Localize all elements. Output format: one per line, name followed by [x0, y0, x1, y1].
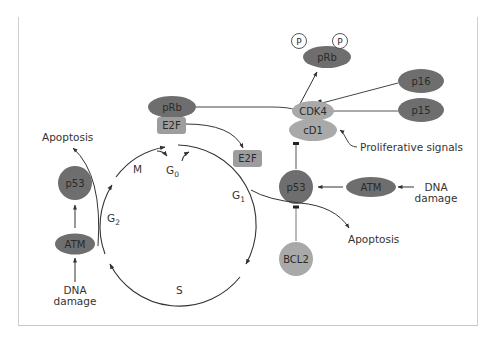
cd1-label: cD1 — [303, 125, 323, 136]
cdk4-to-prb-arrow — [300, 72, 317, 104]
bcl2-label: BCL2 — [283, 254, 309, 265]
prb-to-cdk4-line — [196, 107, 295, 110]
cdk4-cyclin-complex: CDK4 cD1 p16 p15 Proliferative signals — [289, 69, 463, 153]
right-pathway: p53 ATM DNA damage Apoptosis BCL2 — [251, 142, 457, 276]
s-arc — [110, 264, 240, 306]
p15-label: p15 — [411, 105, 430, 116]
g0-entry-arrow — [157, 151, 167, 156]
left-pathway: Apoptosis p53 ATM DNA damage — [42, 131, 99, 307]
phase-s-label: S — [176, 284, 183, 296]
bcl2-p53-inhibition-bar — [293, 206, 299, 209]
prb-e2f-complex: pRb E2F E2F — [148, 96, 295, 167]
p16-label: p16 — [411, 76, 430, 87]
phase-m-label: M — [133, 163, 142, 175]
e2f-release-arrow — [186, 124, 243, 148]
e2f-free-label: E2F — [238, 153, 257, 164]
e2f-bound-label: E2F — [162, 120, 181, 131]
phosphate-right-label: P — [337, 37, 343, 47]
prb-phospho-label: pRb — [317, 52, 337, 63]
apoptosis-left-label: Apoptosis — [42, 131, 93, 143]
atm-left-label: ATM — [65, 239, 86, 250]
phosphate-left-label: P — [296, 37, 302, 47]
atm-right-label: ATM — [361, 182, 382, 193]
phase-g2-label: G2 — [107, 212, 120, 227]
proliferative-signals-label: Proliferative signals — [360, 141, 463, 153]
phase-labels: M G0 G1 S G2 — [107, 163, 245, 296]
p53-left-label: p53 — [65, 178, 84, 189]
phase-g0-label: G0 — [166, 164, 179, 179]
g0-exit-arrow — [182, 152, 189, 161]
p16-inhibition-line — [322, 83, 398, 103]
phase-g1-label: G1 — [232, 189, 245, 204]
proliferative-signals-arrow — [340, 130, 357, 147]
cdk4-label: CDK4 — [299, 106, 327, 117]
dna-damage-left-line2: damage — [54, 295, 97, 307]
phospho-prb-group: pRb P P — [292, 34, 352, 105]
prb-bound-label: pRb — [162, 102, 182, 113]
apoptosis-right-label: Apoptosis — [348, 233, 399, 245]
cell-cycle-diagram: M G0 G1 S G2 Apoptosis p53 ATM DNA damag… — [0, 0, 495, 338]
p53-right-label: p53 — [286, 182, 305, 193]
p53-cd1-inhibition-bar — [293, 142, 299, 145]
dna-damage-right-line2: damage — [415, 192, 458, 204]
